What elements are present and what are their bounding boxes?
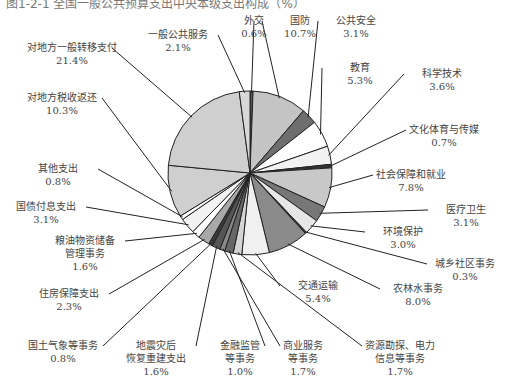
slice-label: 国债付息支出3.1%	[16, 200, 76, 225]
pie-slice	[168, 92, 250, 173]
slice-label: 科学技术3.6%	[422, 67, 462, 92]
slice-label: 国土气象等事务0.8%	[28, 339, 98, 364]
slice-label: 一般公共服务2.1%	[148, 28, 208, 53]
slice-label: 环境保护3.0%	[383, 225, 423, 250]
leader-line	[329, 175, 373, 188]
leader-line	[330, 130, 406, 166]
leader-line	[321, 68, 323, 135]
slice-label: 地震灾后恢复重建支出1.6%	[126, 339, 186, 377]
slice-label: 文化体育与传媒0.7%	[409, 123, 479, 148]
slice-label: 商业服务等事务1.7%	[283, 339, 323, 377]
slice-label: 粮油物资储备管理事务1.6%	[55, 234, 115, 272]
slice-label: 农林水事务8.0%	[393, 282, 443, 307]
slice-label: 住房保障支出2.3%	[39, 287, 99, 312]
slice-label: 公共安全3.1%	[336, 14, 376, 39]
leader-line	[125, 233, 197, 241]
leader-line	[103, 243, 211, 346]
slice-label: 资源勘探、电力信息等事务1.7%	[365, 339, 435, 377]
slice-label: 城乡社区事务0.3%	[435, 257, 495, 282]
slice-label: 其他支出0.8%	[38, 162, 78, 187]
slice-label: 对地方一般转移支付21.4%	[27, 41, 117, 66]
slice-label: 交通运输5.4%	[298, 279, 338, 304]
leader-line	[112, 48, 192, 117]
slice-label: 教育5.3%	[347, 61, 372, 86]
slice-label: 国防10.7%	[284, 14, 316, 39]
leader-line	[218, 35, 245, 93]
slice-label: 医疗卫生3.1%	[446, 203, 486, 228]
leader-line	[86, 207, 189, 225]
slice-label: 金融监管等事务1.0%	[220, 339, 260, 377]
leader-line	[109, 239, 205, 294]
pie-slices	[168, 91, 332, 255]
slice-label: 社会保障和就业7.8%	[376, 168, 446, 193]
leader-line	[238, 252, 362, 346]
pie-chart: 外交0.6%国防10.7%公共安全3.1%教育5.3%科学技术3.6%文化体育与…	[0, 0, 507, 391]
leader-line	[320, 210, 428, 213]
leader-line	[311, 226, 365, 232]
leader-line	[229, 251, 265, 346]
leader-line	[196, 246, 217, 346]
leader-line	[328, 74, 404, 156]
slice-label: 对地方税收返还10.3%	[27, 91, 97, 116]
